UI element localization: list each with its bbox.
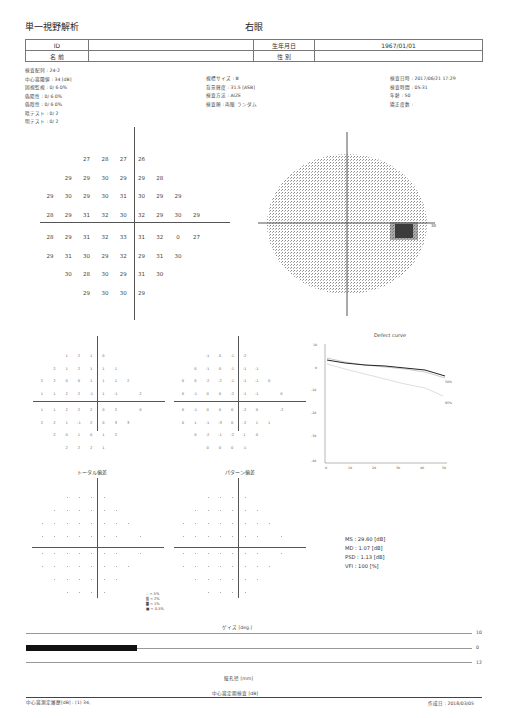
pattern-deviation-value: -1: [203, 421, 213, 425]
pattern-deviation-value: -1: [252, 379, 262, 383]
pattern-deviation-value: 1: [252, 421, 262, 425]
pattern-deviation-value: 0: [227, 408, 237, 412]
threshold-value: 30: [171, 212, 185, 218]
pattern-deviation-value: -1: [203, 354, 213, 358]
total-deviation-value: 0: [135, 408, 145, 412]
total-deviation-value: 2: [123, 379, 133, 383]
created-date: 作成日 : 2018/03/05: [428, 700, 474, 706]
pattern-deviation-value: -3: [215, 421, 225, 425]
threshold-value: 27: [80, 156, 94, 162]
probability-dot: [79, 510, 80, 511]
gaze-trace: [26, 645, 137, 651]
total-deviation-value: 2: [74, 408, 84, 412]
svg-text:-20: -20: [311, 411, 316, 415]
probability-dot: [183, 566, 184, 567]
total-deviation-value: 2: [74, 446, 84, 450]
pattern-deviation-label: パターン偏差: [225, 468, 255, 475]
legend-symbol-05: ■: [146, 607, 149, 611]
threshold-value: 29: [61, 234, 75, 240]
pattern-deviation-value: -2: [240, 354, 250, 358]
probability-dot: [79, 497, 80, 498]
probability-dot: [195, 523, 196, 524]
threshold-value: 30: [116, 290, 130, 296]
pattern-deviation-value: -1: [227, 367, 237, 371]
total-deviation-value: 1: [37, 408, 47, 412]
threshold-value: 28: [153, 175, 167, 181]
total-deviation-value: 0: [62, 379, 72, 383]
probability-dot: [91, 510, 92, 511]
threshold-value: 0: [171, 234, 185, 240]
info-correction: 矯正度数 :: [390, 101, 456, 110]
threshold-value: 29: [116, 271, 130, 277]
probability-dot: [128, 523, 129, 524]
info-mid: 視標サイズ : Ⅲ 背景輝度 : 31.5 [ASB] 検査方法 : AIZE …: [206, 75, 257, 109]
probability-dot: [42, 553, 43, 554]
probability-dot: [42, 523, 43, 524]
threshold-value: 29: [135, 253, 149, 259]
id-value: [89, 40, 254, 51]
threshold-value: 28: [80, 271, 94, 277]
pattern-deviation-value: -2: [227, 392, 237, 396]
total-deviation-value: 1: [49, 392, 59, 396]
threshold-value: 31: [135, 234, 149, 240]
probability-dot: [220, 523, 221, 524]
threshold-value: 28: [98, 156, 112, 162]
id-label: ID: [26, 40, 89, 51]
central-threshold-history: 中心窩測定履歴[dB] : (1) 34,: [26, 699, 90, 705]
probability-dot: [195, 566, 196, 567]
probability-dot: [91, 566, 92, 567]
eye-label: 右眼: [245, 20, 263, 33]
defect-curve-title: Defect curve: [305, 332, 475, 338]
info-fixation-losses: 固視監視 : 0/ 6 0%: [25, 84, 71, 93]
probability-dot: [232, 592, 233, 593]
threshold-value: 30: [98, 193, 112, 199]
probability-dot: [42, 566, 43, 567]
probability-dot: [67, 553, 68, 554]
total-deviation-value: 1: [99, 367, 109, 371]
probability-dot: [232, 579, 233, 580]
total-deviation-value: 0: [99, 354, 109, 358]
threshold-value: 32: [98, 234, 112, 240]
svg-text:30: 30: [396, 466, 400, 470]
threshold-value: 32: [135, 212, 149, 218]
info-false-positive: 偽陽性 : 0/ 6 0%: [25, 93, 71, 102]
total-deviation-value: 2: [86, 408, 96, 412]
grayscale-plot: 30: [255, 120, 485, 320]
threshold-value: 27: [189, 234, 203, 240]
total-deviation-value: 1: [99, 392, 109, 396]
total-deviation-value: 2: [111, 433, 121, 437]
total-deviation-value: 2: [62, 392, 72, 396]
probability-dot: [183, 536, 184, 537]
total-deviation-value: 1: [111, 367, 121, 371]
threshold-value: 30: [135, 193, 149, 199]
info-false-negative: 偽陰性 : 0/ 6 0%: [25, 101, 71, 110]
svg-text:50: 50: [442, 466, 446, 470]
total-deviation-value: 1: [49, 408, 59, 412]
probability-dot: [116, 523, 117, 524]
probability-dot: [208, 566, 209, 567]
total-deviation-value: 2: [74, 354, 84, 358]
threshold-value: 29: [189, 212, 203, 218]
pattern-deviation-value: 0: [227, 446, 237, 450]
probability-dot: [104, 523, 105, 524]
pattern-deviation-value: 0: [190, 367, 200, 371]
probability-dot: [54, 579, 55, 580]
probability-dot: [220, 510, 221, 511]
total-deviation-value: 2: [86, 421, 96, 425]
footer-divider: [26, 697, 482, 698]
gaze-scale-bottom: 12: [476, 660, 482, 665]
pattern-deviation-value: 0: [203, 446, 213, 450]
info-bright-test: 明テスト : 0/ 2: [25, 118, 71, 127]
threshold-value: 32: [116, 253, 130, 259]
threshold-value: 26: [135, 156, 149, 162]
threshold-value: 29: [43, 193, 57, 199]
total-deviation-label: トータル偏差: [77, 468, 107, 475]
total-deviation-value: -1: [86, 392, 96, 396]
total-deviation-value: 1: [86, 354, 96, 358]
probability-dot: [104, 579, 105, 580]
threshold-value: 29: [116, 175, 130, 181]
threshold-value: 30: [80, 253, 94, 259]
probability-dot: [54, 523, 55, 524]
probability-dot: [245, 579, 246, 580]
gaze-label: ゲイズ [deg.]: [222, 624, 252, 630]
